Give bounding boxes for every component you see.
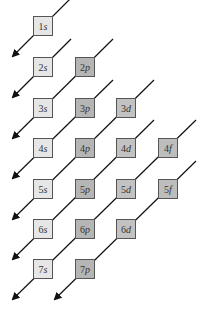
filling-order-arrows xyxy=(0,0,211,309)
orbital-3s: 3s xyxy=(33,98,53,118)
orbital-6p: 6p xyxy=(75,219,95,239)
orbital-l: s xyxy=(44,21,48,32)
orbital-3p: 3p xyxy=(75,98,95,118)
orbital-4f: 4f xyxy=(158,138,178,158)
orbital-5d: 5d xyxy=(116,179,136,199)
orbital-l: f xyxy=(169,184,172,195)
orbital-4p: 4p xyxy=(75,138,95,158)
orbital-l: d xyxy=(126,184,131,195)
orbital-7s: 7s xyxy=(33,259,53,279)
orbital-2p: 2p xyxy=(75,57,95,77)
orbital-l: d xyxy=(126,224,131,235)
orbital-7p: 7p xyxy=(75,259,95,279)
orbital-l: f xyxy=(169,143,172,154)
orbital-l: d xyxy=(126,143,131,154)
orbital-3d: 3d xyxy=(116,98,136,118)
orbital-l: p xyxy=(85,224,90,235)
orbital-2s: 2s xyxy=(33,57,53,77)
orbital-4s: 4s xyxy=(33,138,53,158)
orbital-6s: 6s xyxy=(33,219,53,239)
aufbau-diagram: 1s2s2p3s3p3d4s4p4d4f5s5p5d5f6s6p6d7s7p xyxy=(0,0,211,309)
orbital-l: s xyxy=(44,143,48,154)
orbital-l: s xyxy=(44,103,48,114)
orbital-l: s xyxy=(44,184,48,195)
diagonal-arrow-3 xyxy=(13,80,113,178)
orbital-l: s xyxy=(44,264,48,275)
orbital-l: p xyxy=(85,103,90,114)
orbital-l: s xyxy=(44,224,48,235)
orbital-l: p xyxy=(85,62,90,73)
orbital-l: s xyxy=(44,62,48,73)
orbital-l: p xyxy=(85,143,90,154)
diagonal-arrow-2 xyxy=(13,39,113,138)
orbital-6d: 6d xyxy=(116,219,136,239)
orbital-5f: 5f xyxy=(158,179,178,199)
orbital-5p: 5p xyxy=(75,179,95,199)
orbital-l: p xyxy=(85,184,90,195)
orbital-1s: 1s xyxy=(33,16,53,36)
orbital-5s: 5s xyxy=(33,179,53,199)
orbital-l: d xyxy=(126,103,131,114)
orbital-4d: 4d xyxy=(116,138,136,158)
orbital-l: p xyxy=(85,264,90,275)
